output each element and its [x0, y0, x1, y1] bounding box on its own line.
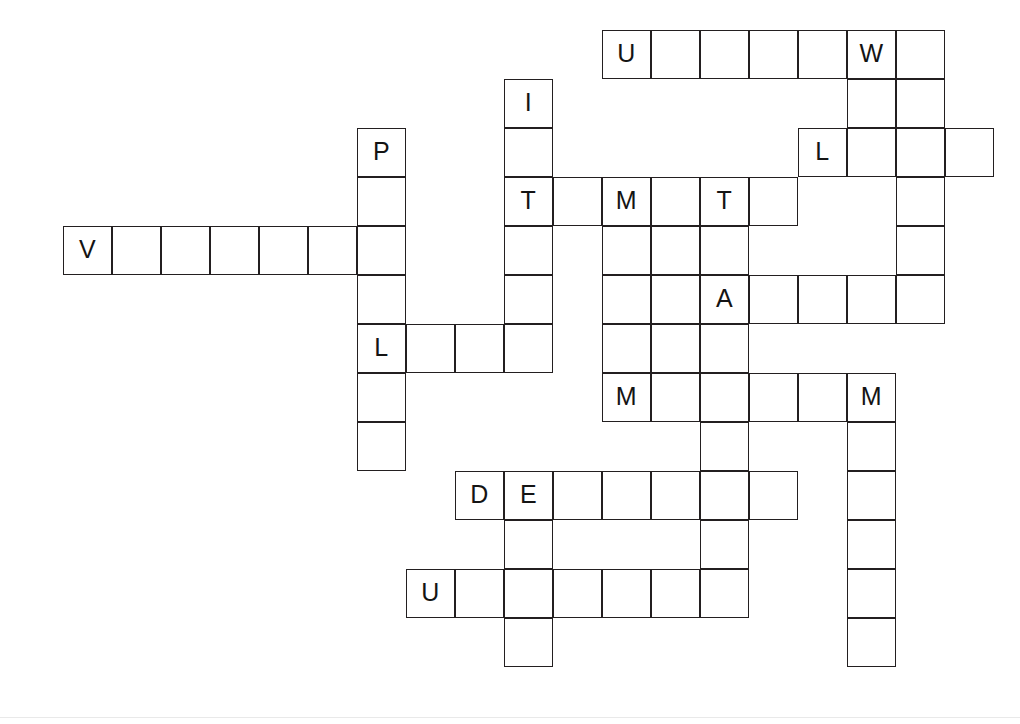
crossword-cell-filled[interactable]: M [602, 373, 651, 422]
crossword-cell-empty[interactable] [896, 177, 945, 226]
crossword-cell-filled[interactable]: M [847, 373, 896, 422]
crossword-cell-empty[interactable] [504, 324, 553, 373]
crossword-cell-empty[interactable] [357, 373, 406, 422]
crossword-cell-filled[interactable]: W [847, 30, 896, 79]
cell-letter: T [521, 188, 537, 213]
crossword-cell-empty[interactable] [406, 324, 455, 373]
crossword-cell-empty[interactable] [651, 30, 700, 79]
crossword-cell-empty[interactable] [847, 569, 896, 618]
crossword-cell-filled[interactable]: U [602, 30, 651, 79]
crossword-cell-empty[interactable] [749, 177, 798, 226]
crossword-cell-empty[interactable] [651, 275, 700, 324]
crossword-cell-empty[interactable] [700, 471, 749, 520]
crossword-cell-empty[interactable] [749, 275, 798, 324]
crossword-cell-empty[interactable] [651, 324, 700, 373]
crossword-cell-empty[interactable] [847, 128, 896, 177]
crossword-cell-empty[interactable] [798, 373, 847, 422]
crossword-cell-empty[interactable] [357, 275, 406, 324]
crossword-cell-empty[interactable] [700, 520, 749, 569]
crossword-cell-filled[interactable]: T [700, 177, 749, 226]
crossword-cell-empty[interactable] [896, 30, 945, 79]
crossword-cell-empty[interactable] [308, 226, 357, 275]
crossword-cell-filled[interactable]: L [798, 128, 847, 177]
crossword-cell-empty[interactable] [896, 226, 945, 275]
crossword-cell-empty[interactable] [455, 569, 504, 618]
crossword-cell-empty[interactable] [357, 226, 406, 275]
crossword-cell-filled[interactable]: P [357, 128, 406, 177]
crossword-cell-empty[interactable] [896, 128, 945, 177]
cell-letter: A [716, 286, 733, 311]
crossword-cell-empty[interactable] [112, 226, 161, 275]
cell-letter: T [717, 188, 733, 213]
crossword-cell-empty[interactable] [847, 422, 896, 471]
crossword-cell-filled[interactable]: I [504, 79, 553, 128]
cell-letter: V [79, 237, 96, 262]
crossword-cell-empty[interactable] [504, 520, 553, 569]
crossword-cell-filled[interactable]: T [504, 177, 553, 226]
crossword-cell-filled[interactable]: M [602, 177, 651, 226]
cell-letter: W [859, 41, 883, 66]
crossword-cell-empty[interactable] [553, 177, 602, 226]
crossword-cell-empty[interactable] [602, 569, 651, 618]
cell-letter: L [815, 139, 829, 164]
crossword-cell-empty[interactable] [210, 226, 259, 275]
crossword-grid[interactable]: UWIPLTMTVALMMDEU [0, 0, 1020, 724]
crossword-cell-empty[interactable] [700, 324, 749, 373]
crossword-cell-empty[interactable] [602, 275, 651, 324]
crossword-cell-empty[interactable] [602, 471, 651, 520]
crossword-cell-empty[interactable] [847, 520, 896, 569]
cell-letter: E [520, 482, 537, 507]
crossword-cell-empty[interactable] [896, 79, 945, 128]
crossword-cell-empty[interactable] [798, 275, 847, 324]
cell-letter: D [470, 482, 489, 507]
crossword-cell-empty[interactable] [259, 226, 308, 275]
crossword-cell-filled[interactable]: L [357, 324, 406, 373]
crossword-cell-empty[interactable] [651, 569, 700, 618]
crossword-cell-empty[interactable] [700, 569, 749, 618]
crossword-cell-empty[interactable] [700, 373, 749, 422]
crossword-cell-empty[interactable] [700, 226, 749, 275]
crossword-cell-empty[interactable] [651, 471, 700, 520]
crossword-cell-filled[interactable]: A [700, 275, 749, 324]
crossword-cell-empty[interactable] [504, 226, 553, 275]
crossword-cell-empty[interactable] [700, 30, 749, 79]
cell-letter: I [525, 90, 532, 115]
cell-letter: M [616, 384, 637, 409]
crossword-cell-empty[interactable] [896, 275, 945, 324]
crossword-cell-empty[interactable] [504, 569, 553, 618]
crossword-cell-filled[interactable]: D [455, 471, 504, 520]
crossword-cell-filled[interactable]: E [504, 471, 553, 520]
crossword-cell-empty[interactable] [504, 128, 553, 177]
crossword-cell-empty[interactable] [700, 422, 749, 471]
crossword-cell-filled[interactable]: V [63, 226, 112, 275]
crossword-cell-empty[interactable] [161, 226, 210, 275]
crossword-cell-empty[interactable] [651, 177, 700, 226]
crossword-cell-empty[interactable] [504, 618, 553, 667]
crossword-cell-empty[interactable] [651, 226, 700, 275]
crossword-cell-empty[interactable] [847, 275, 896, 324]
crossword-cell-empty[interactable] [847, 471, 896, 520]
crossword-cell-empty[interactable] [504, 275, 553, 324]
cell-letter: M [861, 384, 882, 409]
crossword-cell-empty[interactable] [553, 471, 602, 520]
crossword-cell-empty[interactable] [798, 30, 847, 79]
crossword-cell-empty[interactable] [749, 30, 798, 79]
crossword-cell-empty[interactable] [651, 373, 700, 422]
crossword-cell-empty[interactable] [357, 422, 406, 471]
crossword-cell-empty[interactable] [602, 226, 651, 275]
crossword-cell-empty[interactable] [455, 324, 504, 373]
crossword-cell-empty[interactable] [553, 569, 602, 618]
crossword-cell-empty[interactable] [749, 471, 798, 520]
cell-letter: P [373, 139, 390, 164]
cell-letter: U [617, 41, 636, 66]
cell-letter: L [374, 335, 388, 360]
crossword-cell-empty[interactable] [847, 618, 896, 667]
cell-letter: U [421, 580, 440, 605]
crossword-cell-empty[interactable] [357, 177, 406, 226]
crossword-cell-empty[interactable] [749, 373, 798, 422]
crossword-cell-filled[interactable]: U [406, 569, 455, 618]
cell-letter: M [616, 188, 637, 213]
crossword-cell-empty[interactable] [847, 79, 896, 128]
crossword-cell-empty[interactable] [945, 128, 994, 177]
crossword-cell-empty[interactable] [602, 324, 651, 373]
